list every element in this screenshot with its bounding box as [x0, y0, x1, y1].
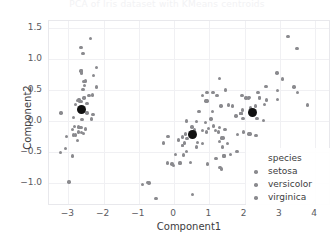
data-point	[91, 93, 94, 96]
data-point	[184, 132, 187, 135]
data-point	[263, 103, 266, 106]
data-point	[82, 80, 85, 83]
gridline-horizontal	[49, 59, 329, 60]
cluster-centroid	[77, 105, 86, 114]
data-point	[265, 98, 268, 101]
data-point	[77, 98, 80, 101]
data-point	[67, 180, 70, 183]
legend[interactable]: species setosa versicolor virginica	[246, 148, 334, 208]
data-point	[262, 119, 265, 122]
data-point	[258, 96, 261, 99]
legend-item-versicolor[interactable]: versicolor	[246, 178, 334, 191]
data-point	[162, 141, 165, 144]
data-point	[95, 85, 98, 88]
data-point	[74, 103, 77, 106]
x-tick-label: 2	[241, 208, 247, 219]
data-point	[91, 113, 94, 116]
data-point	[256, 91, 259, 94]
data-point	[214, 157, 217, 160]
data-point	[77, 125, 80, 128]
legend-item-label: versicolor	[268, 179, 312, 189]
cluster-centroid	[188, 130, 197, 139]
gridline-vertical	[209, 21, 210, 204]
data-point	[201, 94, 204, 97]
legend-title: species	[246, 152, 334, 165]
data-point	[205, 91, 208, 94]
data-point	[275, 71, 278, 74]
data-point	[217, 130, 220, 133]
data-point	[296, 91, 299, 94]
gridline-horizontal	[49, 90, 329, 91]
data-point	[191, 193, 194, 196]
gridline-vertical	[104, 21, 105, 204]
data-point	[181, 135, 184, 138]
x-tick-label: 4	[311, 208, 317, 219]
data-point	[79, 46, 82, 49]
data-point	[81, 88, 84, 91]
data-point	[170, 162, 173, 165]
data-point	[195, 145, 198, 148]
gridline-vertical	[174, 21, 175, 204]
data-point	[223, 128, 226, 131]
data-point	[227, 103, 230, 106]
data-point	[95, 66, 98, 69]
x-tick-label: 0	[170, 208, 176, 219]
data-point	[295, 47, 298, 50]
data-point	[281, 77, 284, 80]
x-tick-label: −1	[131, 208, 144, 219]
data-point	[154, 197, 157, 200]
legend-item-label: setosa	[268, 166, 297, 176]
data-point	[64, 147, 67, 150]
data-point	[306, 103, 309, 106]
data-point	[76, 139, 79, 142]
figure-title-cropped: PCA of Iris dataset with KMeans centroid…	[0, 0, 334, 9]
legend-item-virginica[interactable]: virginica	[246, 191, 334, 204]
data-point	[226, 142, 229, 145]
data-point	[185, 150, 188, 153]
data-point	[286, 35, 289, 38]
data-point	[174, 153, 177, 156]
data-point	[72, 116, 75, 119]
data-point	[215, 94, 218, 97]
data-point	[59, 111, 62, 114]
data-point	[87, 94, 90, 97]
legend-item-label: virginica	[268, 192, 306, 202]
data-point	[205, 130, 208, 133]
data-point	[85, 111, 88, 114]
data-point	[241, 108, 244, 111]
data-point	[177, 138, 180, 141]
data-point	[212, 124, 215, 127]
data-point	[85, 102, 88, 105]
data-point	[83, 84, 86, 87]
x-tick-label: −3	[61, 208, 74, 219]
x-tick-label: 3	[276, 208, 282, 219]
data-point	[196, 141, 199, 144]
data-point	[72, 133, 75, 136]
data-point	[189, 161, 192, 164]
legend-item-setosa[interactable]: setosa	[246, 165, 334, 178]
gridline-horizontal	[49, 121, 329, 122]
data-point	[218, 126, 221, 129]
gridline-vertical	[139, 21, 140, 204]
data-point	[221, 136, 224, 139]
data-point	[209, 117, 212, 120]
data-point	[195, 120, 198, 123]
data-point	[201, 129, 204, 132]
data-point	[201, 142, 204, 145]
data-point	[92, 74, 95, 77]
data-point	[73, 125, 76, 128]
data-point	[239, 112, 242, 115]
data-point	[218, 140, 221, 143]
data-point	[166, 135, 169, 138]
x-tick-label: 1	[206, 208, 212, 219]
data-point	[166, 161, 169, 164]
data-point	[254, 134, 257, 137]
data-point	[71, 128, 74, 131]
data-point	[222, 154, 225, 157]
data-point	[241, 117, 244, 120]
data-point	[141, 183, 144, 186]
data-point	[204, 99, 207, 102]
data-point	[292, 85, 295, 88]
legend-marker-icon	[254, 183, 258, 187]
data-point	[90, 117, 93, 120]
